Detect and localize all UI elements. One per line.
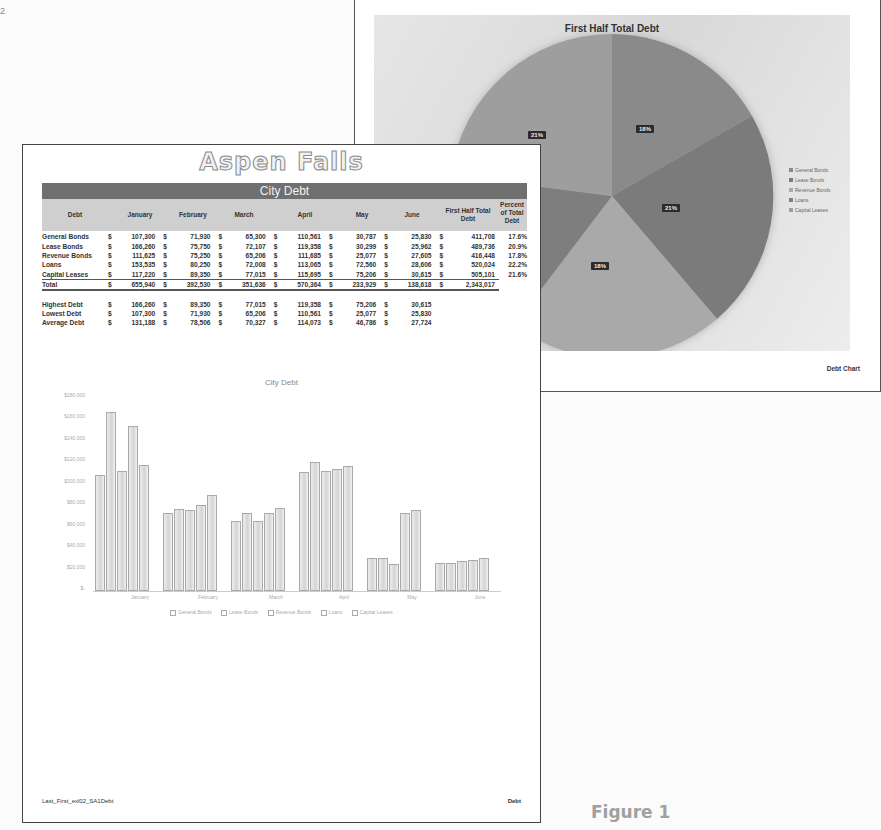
bar[interactable] (446, 563, 456, 591)
currency-symbol: $ (436, 241, 450, 250)
cell[interactable]: 89,350 (173, 299, 214, 308)
bar[interactable] (457, 561, 467, 591)
cell[interactable]: 113,065 (284, 260, 325, 269)
cell[interactable]: 77,015 (229, 270, 270, 280)
cell[interactable]: 28,606 (394, 260, 435, 269)
bar[interactable] (299, 472, 309, 591)
bar[interactable] (343, 466, 353, 591)
percent-cell[interactable]: 20.9% (499, 241, 527, 250)
bar[interactable] (207, 495, 217, 591)
bar[interactable] (128, 426, 138, 591)
bar[interactable] (435, 563, 445, 591)
percent-cell[interactable]: 17.8% (499, 251, 527, 260)
cell[interactable]: 110,561 (284, 309, 325, 318)
cell[interactable]: 351,636 (229, 279, 270, 290)
bar[interactable] (479, 558, 489, 591)
bar-chart-plot[interactable] (93, 397, 501, 592)
percent-cell[interactable]: 21.6% (499, 270, 527, 280)
bar[interactable] (139, 465, 149, 591)
bar[interactable] (367, 558, 377, 591)
cell[interactable]: 27,605 (394, 251, 435, 260)
bar[interactable] (321, 471, 331, 591)
bar[interactable] (231, 521, 241, 591)
cell[interactable]: 153,535 (118, 260, 159, 269)
cell[interactable]: 392,530 (173, 279, 214, 290)
cell[interactable]: 119,358 (284, 241, 325, 250)
bar[interactable] (400, 513, 410, 591)
bar[interactable] (163, 513, 173, 591)
cell[interactable]: 30,299 (339, 241, 380, 250)
cell[interactable]: 166,260 (118, 299, 159, 308)
cell[interactable]: 78,506 (173, 318, 214, 327)
bar[interactable] (253, 521, 263, 591)
bar[interactable] (185, 510, 195, 591)
cell[interactable]: 107,300 (118, 232, 159, 241)
cell[interactable]: 655,940 (118, 279, 159, 290)
cell[interactable]: 25,077 (339, 309, 380, 318)
cell[interactable]: 80,250 (173, 260, 214, 269)
bar[interactable] (242, 513, 252, 591)
percent-cell[interactable]: 22.2% (499, 260, 527, 269)
cell[interactable]: 138,618 (394, 279, 435, 290)
cell[interactable]: 65,300 (229, 232, 270, 241)
cell[interactable]: 77,015 (229, 299, 270, 308)
cell[interactable]: 131,188 (118, 318, 159, 327)
cell[interactable]: 75,250 (173, 251, 214, 260)
cell[interactable]: 72,008 (229, 260, 270, 269)
cell[interactable]: 65,206 (229, 251, 270, 260)
col-header-percent: Percent of Total Debt (497, 201, 527, 225)
cell[interactable]: 25,962 (394, 241, 435, 250)
cell[interactable]: 411,708 (450, 232, 500, 241)
cell[interactable]: 71,930 (173, 232, 214, 241)
cell[interactable]: 75,750 (173, 241, 214, 250)
bar[interactable] (468, 560, 478, 591)
cell[interactable]: 119,358 (284, 299, 325, 308)
cell[interactable]: 65,206 (229, 309, 270, 318)
cell[interactable]: 89,350 (173, 270, 214, 280)
cell[interactable]: 75,206 (339, 270, 380, 280)
cell[interactable]: 489,736 (450, 241, 500, 250)
cell[interactable]: 70,327 (229, 318, 270, 327)
cell[interactable]: 110,561 (284, 232, 325, 241)
cell[interactable]: 166,260 (118, 241, 159, 250)
cell[interactable]: 75,206 (339, 299, 380, 308)
bar[interactable] (275, 508, 285, 591)
bar[interactable] (389, 564, 399, 591)
bar[interactable] (174, 509, 184, 591)
cell[interactable]: 30,615 (394, 270, 435, 280)
cell[interactable]: 114,073 (284, 318, 325, 327)
cell[interactable]: 117,220 (118, 270, 159, 280)
cell[interactable]: 2,343,017 (450, 279, 500, 290)
percent-cell[interactable]: 17.6% (499, 232, 527, 241)
cell[interactable]: 25,830 (394, 232, 435, 241)
cell[interactable]: 111,625 (118, 251, 159, 260)
bar[interactable] (378, 558, 388, 591)
pie-chart-title: First Half Total Debt (374, 23, 850, 34)
cell[interactable]: 25,830 (394, 309, 435, 318)
cell[interactable]: 520,024 (450, 260, 500, 269)
bar[interactable] (196, 505, 206, 591)
cell[interactable]: 233,929 (339, 279, 380, 290)
legend-swatch (789, 188, 793, 192)
cell[interactable]: 107,300 (118, 309, 159, 318)
cell[interactable]: 115,695 (284, 270, 325, 280)
cell[interactable]: 570,364 (284, 279, 325, 290)
bar[interactable] (310, 462, 320, 591)
bar[interactable] (332, 469, 342, 591)
cell[interactable]: 46,786 (339, 318, 380, 327)
cell[interactable]: 505,101 (450, 270, 500, 280)
bar[interactable] (117, 471, 127, 591)
bar[interactable] (106, 412, 116, 591)
cell[interactable]: 27,724 (394, 318, 435, 327)
cell[interactable]: 72,107 (229, 241, 270, 250)
cell[interactable]: 25,077 (339, 251, 380, 260)
cell[interactable]: 416,448 (450, 251, 500, 260)
cell[interactable]: 111,685 (284, 251, 325, 260)
bar[interactable] (95, 475, 105, 591)
cell[interactable]: 72,560 (339, 260, 380, 269)
cell[interactable]: 30,787 (339, 232, 380, 241)
bar[interactable] (411, 510, 421, 591)
cell[interactable]: 30,615 (394, 299, 435, 308)
cell[interactable]: 71,930 (173, 309, 214, 318)
bar[interactable] (264, 513, 274, 591)
